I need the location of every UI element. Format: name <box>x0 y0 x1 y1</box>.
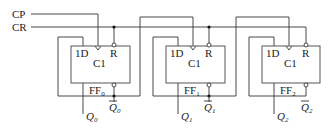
ff2-clk-label: C1 <box>284 57 297 69</box>
cp-wire <box>31 14 98 46</box>
qbar-bubble-icon <box>304 83 308 87</box>
ff1-name: FF1 <box>184 84 200 98</box>
ff1-qbar-label: Q1 <box>204 101 215 115</box>
ff2-reset-label: R <box>302 47 310 59</box>
qbar-bubble-icon <box>112 83 116 87</box>
counter-circuit-diagram: CP CR 1D C1 R FF0 Q0 Q0 <box>0 0 333 131</box>
ff1-reset-label: R <box>205 47 213 59</box>
ff0-d-label: 1D <box>75 47 89 59</box>
cp-label: CP <box>12 8 25 20</box>
junction-dot <box>207 25 210 28</box>
junction-dot <box>112 25 115 28</box>
ff0-qbar-label: Q0 <box>109 101 121 115</box>
ff2-d-label: 1D <box>266 47 280 59</box>
cr-bus-wire <box>31 27 306 43</box>
ff2-q-label: Q2 <box>277 110 289 124</box>
cr-label: CR <box>12 21 27 33</box>
ff0-clk-label: C1 <box>93 57 106 69</box>
ff2-qbar-label: Q2 <box>301 101 313 115</box>
ff1-d-label: 1D <box>170 47 184 59</box>
ff2-name: FF2 <box>280 84 296 98</box>
qbar-bubble-icon <box>207 83 211 87</box>
ff0-name: FF0 <box>89 84 105 98</box>
ff1-q-label: Q1 <box>181 110 192 124</box>
ff1-clk-label: C1 <box>188 57 201 69</box>
flipflop-ff2: 1D C1 R FF2 Q2 Q2 <box>249 37 320 124</box>
ff0-reset-label: R <box>110 47 118 59</box>
ff0-q-label: Q0 <box>86 110 98 124</box>
